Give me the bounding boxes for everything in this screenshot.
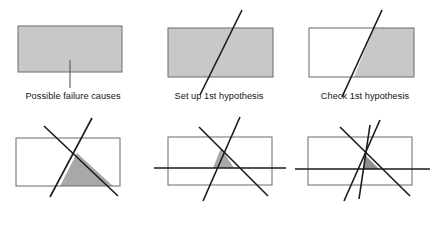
- panel-3-caption: Check 1st hypothesis: [292, 91, 438, 102]
- remaining-solution-space: [60, 153, 113, 186]
- hypothesis-line-1: [203, 117, 240, 201]
- panel-4-graphic: [0, 113, 146, 226]
- solution-space-rect: [308, 137, 412, 185]
- remaining-solution-space: [364, 154, 379, 169]
- panel-6-graphic: [292, 113, 438, 226]
- panel-5-graphic: [146, 113, 292, 226]
- panel-check-first-hypothesis: Check 1st hypothesis: [292, 0, 438, 113]
- panel-set-up-first-hypothesis: Set up 1st hypothesis: [146, 0, 292, 113]
- panel-1-caption: Possible failure causes: [0, 91, 146, 102]
- panel-third-hypothesis: 3rd hypothesis: [146, 113, 292, 226]
- panel-second-hypothesis: 2nd hypothesis: [0, 113, 146, 226]
- panel-2-caption: Set up 1st hypothesis: [146, 91, 292, 102]
- panel-possible-failure-causes: Possible failure causes: [0, 0, 146, 113]
- panel-fourth-hypothesis: 4th hypothesis ...: [292, 113, 438, 226]
- hypothesis-narrowing-diagram: Possible failure causes Set up 1st hypot…: [0, 0, 438, 226]
